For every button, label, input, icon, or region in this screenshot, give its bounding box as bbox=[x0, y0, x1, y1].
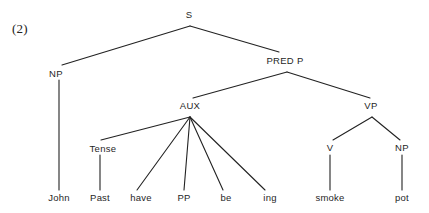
tree-edge-s-np1 bbox=[62, 26, 190, 65]
tree-edge-aux-ing bbox=[190, 117, 265, 190]
tree-edge-aux-have bbox=[137, 117, 190, 190]
tree-node-vp: VP bbox=[364, 100, 377, 111]
tree-edge-vp-v bbox=[333, 117, 372, 140]
tree-leaf-be: be bbox=[221, 192, 232, 203]
tree-edge-aux-tense bbox=[101, 117, 190, 140]
tree-edge-aux-pp bbox=[184, 117, 190, 190]
tree-leaf-john: John bbox=[48, 192, 69, 203]
tree-edge-predp-vp bbox=[287, 72, 370, 98]
tree-node-aux: AUX bbox=[180, 100, 200, 111]
tree-node-np1: NP bbox=[49, 68, 63, 79]
tree-leaf-pp: PP bbox=[177, 192, 190, 203]
tree-leaf-ing: ing bbox=[263, 192, 276, 203]
tree-edge-vp-np2 bbox=[372, 117, 400, 140]
tree-edge-aux-be bbox=[190, 117, 223, 190]
tree-node-tense: Tense bbox=[90, 143, 117, 154]
tree-node-v: V bbox=[327, 142, 334, 153]
tree-node-s: S bbox=[186, 9, 193, 20]
tree-edge-s-predp bbox=[190, 26, 279, 52]
tree-edge-group bbox=[59, 26, 402, 190]
tree-leaf-have: have bbox=[130, 192, 151, 203]
tree-leaf-past: Past bbox=[90, 192, 110, 203]
tree-edge-predp-aux bbox=[193, 72, 287, 98]
tree-leaf-smoke: smoke bbox=[316, 192, 345, 203]
tree-node-predp: PRED P bbox=[266, 55, 303, 66]
tree-leaf-pot: pot bbox=[395, 192, 409, 203]
tree-node-np2: NP bbox=[395, 142, 409, 153]
